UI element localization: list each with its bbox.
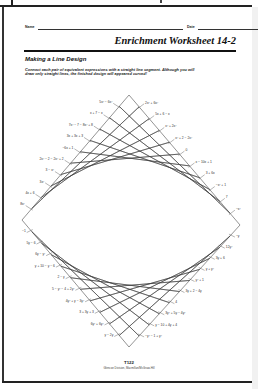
upper-left-expression-label: 7x² − 7 − 8x² + 8 <box>69 124 93 128</box>
lower-left-expression-label: 4y² + y − 3y² <box>66 300 84 304</box>
upper-right-expression-label: 2x² + 6x² <box>145 102 158 106</box>
lower-right-expression-label: −y <box>236 235 240 239</box>
page-number: T122 <box>0 360 258 365</box>
lower-right-expression-label: y + y² <box>206 268 214 272</box>
lower-left-expression-label: 6y² + 6y² <box>91 323 104 327</box>
lower-right-expression-label: y² + 1 <box>196 279 204 283</box>
worksheet-page: Name Date Enrichment Worksheet 14-2 Maki… <box>0 0 258 389</box>
upper-right-expression-label: −x² <box>236 208 241 212</box>
upper-left-expression-label: 8x² <box>20 203 25 207</box>
lower-right-expression-label: y − 10 + 4y + 4 <box>155 324 177 328</box>
lower-left-expression-label: y + 10 − y − 6 <box>35 265 55 269</box>
lower-right-expression-label: 12y² <box>226 246 232 250</box>
upper-left-expression-label: 5x² − 6x² <box>99 101 112 105</box>
upper-right-expression-label: 5x + 6 − x <box>155 113 169 117</box>
upper-right-expression-label: x² + 2x² <box>165 125 176 129</box>
upper-left-expression-label: 3 − x² <box>46 169 54 173</box>
upper-right-expression-label: 0 <box>185 149 187 153</box>
lower-left-expression-label: 5y − 6 <box>26 242 35 246</box>
lower-left-expression-label: 2 − y <box>57 276 64 280</box>
lower-right-expression-label: −y² − 1 + y² <box>145 335 162 339</box>
lower-right-expression-label: 3y + 6 <box>216 257 225 261</box>
lower-right-expression-label: 3y + 2 − 4y <box>185 290 201 294</box>
upper-left-expression-label: x + 7 − x <box>90 112 103 116</box>
upper-right-expression-label: 3 + 6x <box>206 172 215 176</box>
upper-left-expression-label: −6x + 1 <box>62 147 73 151</box>
lower-left-expression-label: 6y − y² <box>35 253 45 257</box>
upper-right-expression-label: −x² + 1 <box>216 184 226 188</box>
lower-left-expression-label: 5 − y² − 4 + 2y² <box>52 288 74 292</box>
lower-left-expression-label: y − 2y <box>104 334 113 338</box>
label-tick-marks <box>26 103 235 337</box>
line-design-diagram <box>0 0 258 389</box>
publisher-credit: Glencoe Division, Macmillan/McGraw-Hill <box>0 366 258 370</box>
upper-right-expression-label: x² + 2 − 2x² <box>175 137 192 141</box>
upper-right-expression-label: x − 10x + 1 <box>196 161 212 165</box>
upper-left-expression-label: 4x + 6 <box>25 192 34 196</box>
upper-left-expression-label: 3x² <box>40 181 45 185</box>
string-art-lines <box>22 95 240 347</box>
upper-left-expression-label: 2x² − 2 − 2x² + 2 <box>40 158 64 162</box>
lower-right-expression-label: 4 <box>175 301 177 305</box>
lower-left-expression-label: 3 + 3y + 3 <box>79 311 94 315</box>
lower-right-expression-label: 3y² + 5y − 4y² <box>165 312 185 316</box>
lower-left-expression-label: −1 <box>22 230 26 234</box>
upper-right-expression-label: 7 <box>226 196 228 200</box>
upper-left-expression-label: 3x + 3x + 3 <box>67 135 83 139</box>
